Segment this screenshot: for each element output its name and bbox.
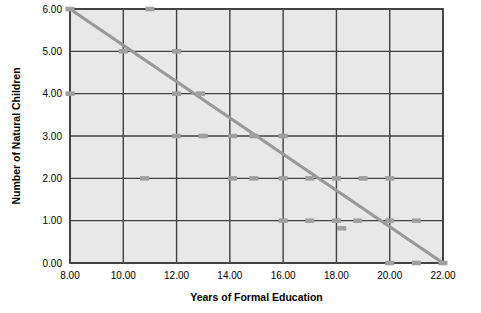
- x-tick-label: 12.00: [164, 270, 189, 281]
- data-point-marker: [140, 176, 149, 181]
- x-axis-tick-labels: 8.0010.0012.0014.0016.0018.0020.0022.00: [60, 270, 456, 281]
- y-tick-label: 3.00: [43, 131, 63, 142]
- data-point-marker: [249, 134, 258, 139]
- data-point-marker: [332, 218, 341, 223]
- scatter-plot-figure: 8.0010.0012.0014.0016.0018.0020.0022.000…: [0, 0, 481, 313]
- y-tick-label: 2.00: [43, 173, 63, 184]
- data-point-marker: [305, 218, 314, 223]
- x-tick-label: 14.00: [217, 270, 242, 281]
- data-point-marker: [353, 218, 362, 223]
- x-tick-label: 16.00: [271, 270, 296, 281]
- y-axis-title: Number of Natural Children: [10, 67, 22, 204]
- y-tick-label: 5.00: [43, 46, 63, 57]
- data-point-marker: [332, 176, 341, 181]
- data-point-marker: [385, 261, 394, 266]
- data-point-marker: [196, 91, 205, 96]
- data-point-marker: [385, 218, 394, 223]
- data-point-marker: [119, 49, 128, 54]
- x-tick-label: 22.00: [430, 270, 455, 281]
- x-tick-label: 10.00: [111, 270, 136, 281]
- data-point-marker: [228, 134, 237, 139]
- data-point-marker: [385, 176, 394, 181]
- data-point-marker: [279, 134, 288, 139]
- data-point-marker: [172, 49, 181, 54]
- data-point-marker: [305, 176, 314, 181]
- data-point-marker: [412, 218, 421, 223]
- data-point-marker: [439, 261, 448, 266]
- data-point-marker: [172, 91, 181, 96]
- x-tick-label: 20.00: [377, 270, 402, 281]
- y-axis-tick-labels: 0.001.002.003.004.005.006.00: [43, 4, 63, 269]
- data-point-marker: [228, 176, 237, 181]
- data-point-marker: [145, 7, 154, 12]
- data-point-marker: [249, 176, 258, 181]
- data-point-marker: [66, 91, 75, 96]
- data-point-marker: [279, 176, 288, 181]
- data-point-marker: [337, 226, 346, 231]
- y-tick-label: 1.00: [43, 215, 63, 226]
- data-point-marker: [199, 134, 208, 139]
- x-axis-title: Years of Formal Education: [190, 291, 322, 303]
- y-tick-label: 6.00: [43, 4, 63, 15]
- y-tick-label: 0.00: [43, 258, 63, 269]
- data-point-marker: [279, 218, 288, 223]
- x-tick-label: 18.00: [324, 270, 349, 281]
- data-point-marker: [66, 7, 75, 12]
- y-tick-label: 4.00: [43, 88, 63, 99]
- data-point-marker: [172, 134, 181, 139]
- data-point-marker: [359, 176, 368, 181]
- data-point-marker: [412, 261, 421, 266]
- x-tick-label: 8.00: [60, 270, 80, 281]
- chart-canvas: 8.0010.0012.0014.0016.0018.0020.0022.000…: [0, 0, 481, 313]
